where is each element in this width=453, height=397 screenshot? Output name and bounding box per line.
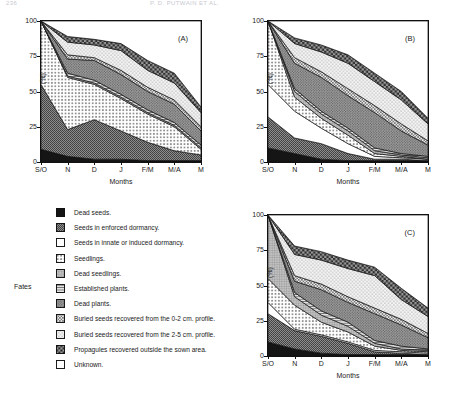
x-tick-mark bbox=[41, 162, 42, 165]
x-tick-mark bbox=[348, 356, 349, 359]
x-tick-label: F/M bbox=[369, 166, 381, 173]
legend-item-label: Dead plants. bbox=[74, 300, 111, 307]
y-tick-label: 0 bbox=[240, 352, 264, 359]
legend-item: Dead seeds. bbox=[56, 205, 111, 220]
x-tick-label: S/O bbox=[35, 166, 47, 173]
x-tick-label: D bbox=[92, 166, 97, 173]
y-tick-label: 0 bbox=[240, 158, 264, 165]
x-tick-label: J bbox=[346, 166, 350, 173]
legend-swatch-icon bbox=[56, 284, 65, 293]
running-head: 236 P. D. PUTWAIN ET AL. bbox=[0, 0, 453, 12]
x-tick-label: M bbox=[425, 360, 431, 367]
y-tick-label: 25 bbox=[240, 123, 264, 130]
y-tick-mark bbox=[264, 321, 267, 322]
legend-item-label: Seedlings. bbox=[74, 255, 105, 262]
legend-item: Established plants. bbox=[56, 281, 129, 296]
x-tick-label: N bbox=[292, 166, 297, 173]
legend-item: Seeds in innate or induced dormancy. bbox=[56, 235, 184, 250]
x-tick-label: D bbox=[319, 360, 324, 367]
x-tick-label: M bbox=[198, 166, 204, 173]
plot-area-c: (C) (%) Months S/ONDJF/MM/AM1007550250 bbox=[267, 214, 429, 357]
x-tick-mark bbox=[321, 162, 322, 165]
x-tick-mark bbox=[295, 162, 296, 165]
y-tick-mark bbox=[264, 92, 267, 93]
x-tick-label: M/A bbox=[395, 360, 407, 367]
x-tick-label: M/A bbox=[395, 166, 407, 173]
legend-item: Dead seedlings. bbox=[56, 266, 121, 281]
x-tick-mark bbox=[428, 162, 429, 165]
legend-item-label: Seeds in enforced dormancy. bbox=[74, 224, 159, 231]
plot-area-a: (A) (%) Months S/ONDJF/MM/AM1007550250 bbox=[40, 20, 202, 163]
legend-item: Seeds in enforced dormancy. bbox=[56, 220, 159, 235]
x-axis-label-b: Months bbox=[337, 178, 360, 185]
x-tick-mark bbox=[428, 356, 429, 359]
legend-swatch-icon bbox=[56, 269, 65, 278]
y-tick-mark bbox=[264, 215, 267, 216]
y-tick-label: 50 bbox=[240, 88, 264, 95]
x-tick-label: N bbox=[65, 166, 70, 173]
x-tick-label: M bbox=[425, 166, 431, 173]
legend-item-label: Propagules recovered outside the sown ar… bbox=[74, 346, 207, 353]
y-tick-label: 100 bbox=[240, 17, 264, 24]
y-tick-label: 25 bbox=[13, 123, 37, 130]
y-axis-label-a: (%) bbox=[39, 73, 46, 84]
x-tick-mark bbox=[321, 356, 322, 359]
legend-item: Propagules recovered outside the sown ar… bbox=[56, 342, 207, 357]
x-tick-mark bbox=[401, 162, 402, 165]
y-tick-label: 50 bbox=[13, 88, 37, 95]
legend-swatch-icon bbox=[56, 360, 65, 369]
y-tick-mark bbox=[37, 162, 40, 163]
y-tick-mark bbox=[37, 21, 40, 22]
chart-panel-c: (C) (%) Months S/ONDJF/MM/AM1007550250 bbox=[235, 208, 447, 394]
y-tick-mark bbox=[264, 127, 267, 128]
x-axis-label-c: Months bbox=[337, 372, 360, 379]
y-axis-label-b: (%) bbox=[266, 73, 273, 84]
x-tick-label: M/A bbox=[168, 166, 180, 173]
y-tick-label: 0 bbox=[13, 158, 37, 165]
x-tick-label: F/M bbox=[142, 166, 154, 173]
x-tick-mark bbox=[268, 162, 269, 165]
plot-area-b: (B) (%) Months S/ONDJF/MM/AM1007550250 bbox=[267, 20, 429, 163]
panel-tag-c: (C) bbox=[405, 228, 415, 237]
y-tick-mark bbox=[37, 127, 40, 128]
legend-item-label: Unknown. bbox=[74, 361, 103, 368]
x-tick-mark bbox=[348, 162, 349, 165]
legend-swatch-icon bbox=[56, 314, 65, 323]
y-tick-mark bbox=[264, 21, 267, 22]
legend-swatch-icon bbox=[56, 223, 65, 232]
x-tick-mark bbox=[268, 356, 269, 359]
x-tick-mark bbox=[174, 162, 175, 165]
legend-swatch-icon bbox=[56, 238, 65, 247]
legend-item: Seedlings. bbox=[56, 251, 105, 266]
x-tick-mark bbox=[375, 356, 376, 359]
y-tick-mark bbox=[37, 56, 40, 57]
y-tick-mark bbox=[264, 162, 267, 163]
figure-page: 236 P. D. PUTWAIN ET AL. (A) (%) Months … bbox=[0, 0, 453, 397]
x-tick-label: N bbox=[292, 360, 297, 367]
legend-swatch-icon bbox=[56, 254, 65, 263]
x-tick-label: J bbox=[119, 166, 123, 173]
x-tick-mark bbox=[68, 162, 69, 165]
x-tick-mark bbox=[148, 162, 149, 165]
x-tick-mark bbox=[201, 162, 202, 165]
legend-swatch-icon bbox=[56, 330, 65, 339]
legend-item-label: Buried seeds recovered from the 2-5 cm. … bbox=[74, 331, 215, 338]
legend-item-label: Dead seedlings. bbox=[74, 270, 121, 277]
chart-panel-a: (A) (%) Months S/ONDJF/MM/AM1007550250 bbox=[8, 14, 220, 200]
y-tick-mark bbox=[37, 92, 40, 93]
legend-item: Dead plants. bbox=[56, 296, 111, 311]
x-tick-mark bbox=[375, 162, 376, 165]
legend-item: Unknown. bbox=[56, 357, 103, 372]
legend-swatch-icon bbox=[56, 208, 65, 217]
y-tick-label: 75 bbox=[240, 52, 264, 59]
running-head-authors: P. D. PUTWAIN ET AL. bbox=[150, 0, 219, 6]
chart-panel-b: (B) (%) Months S/ONDJF/MM/AM1007550250 bbox=[235, 14, 447, 200]
panel-tag-a: (A) bbox=[178, 34, 188, 43]
panel-tag-b: (B) bbox=[405, 34, 415, 43]
legend-group-label: Fates bbox=[14, 283, 32, 290]
y-tick-mark bbox=[264, 286, 267, 287]
legend-swatch-icon bbox=[56, 345, 65, 354]
y-tick-label: 50 bbox=[240, 282, 264, 289]
x-tick-label: F/M bbox=[369, 360, 381, 367]
legend-item-label: Established plants. bbox=[74, 285, 129, 292]
